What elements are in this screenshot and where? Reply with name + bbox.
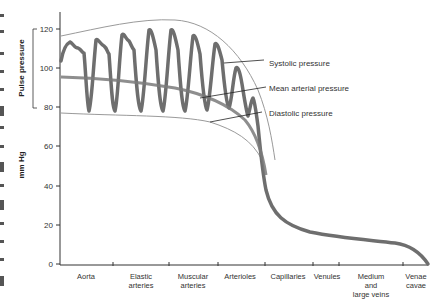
diastolic-envelope-line — [61, 113, 262, 160]
y-tick-label-0: 0 — [49, 260, 54, 269]
category-elastic-arteries-1: Elastic — [130, 272, 152, 281]
category-medium-large-veins-2: and — [365, 281, 378, 290]
y-tick-label-20: 20 — [44, 221, 53, 230]
y-axis-title: mm Hg — [17, 151, 26, 178]
category-muscular-arteries-2: arteries — [180, 281, 205, 290]
y-tick-label-60: 60 — [44, 142, 53, 151]
legend-diastolic-pressure: Diastolic pressure — [269, 109, 333, 118]
category-venae-cavae-2: cavae — [406, 281, 426, 290]
pulse-pressure-label: Pulse pressure — [17, 39, 26, 97]
category-medium-large-veins-3: large veins — [353, 290, 390, 299]
category-aorta: Aorta — [77, 272, 96, 281]
systolic-leader-line — [224, 60, 264, 63]
category-muscular-arteries-1: Muscular — [178, 272, 209, 281]
category-elastic-arteries-2: arteries — [128, 281, 153, 290]
blood-pressure-chart: 120 100 80 60 40 20 0 Pulse pressure mm … — [0, 0, 433, 308]
y-tick-label-100: 100 — [40, 64, 54, 73]
legend-systolic-pressure: Systolic pressure — [269, 59, 330, 68]
y-tick-label-40: 40 — [44, 182, 53, 191]
y-tick-label-120: 120 — [40, 25, 54, 34]
pulse-pressure-bracket — [33, 29, 37, 108]
legend-mean-arterial-pressure: Mean arterial pressure — [269, 84, 350, 93]
category-arterioles: Arterioles — [224, 272, 256, 281]
category-venae-cavae-1: Venae — [405, 272, 426, 281]
y-ticks: 120 100 80 60 40 20 0 — [40, 25, 60, 269]
x-category-labels: Aorta Elastic arteries Muscular arteries… — [77, 272, 427, 299]
category-medium-large-veins-1: Medium — [358, 272, 385, 281]
category-venules: Venules — [314, 272, 341, 281]
y-tick-label-80: 80 — [44, 103, 53, 112]
category-capillaries: Capillaries — [270, 272, 305, 281]
